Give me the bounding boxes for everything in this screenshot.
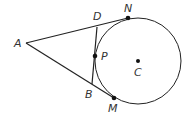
label-m: M xyxy=(108,102,118,115)
label-d: D xyxy=(93,10,101,23)
point-n xyxy=(126,16,131,21)
label-b: B xyxy=(85,88,93,101)
point-p xyxy=(93,54,98,59)
geometry-diagram: A D N P C B M xyxy=(0,0,190,121)
label-p: P xyxy=(101,50,108,63)
label-a: A xyxy=(13,37,22,50)
label-n: N xyxy=(124,2,132,15)
center-point-c xyxy=(136,59,140,63)
point-m xyxy=(112,96,117,101)
tangent-segment-an xyxy=(26,18,128,43)
label-c: C xyxy=(134,66,142,79)
